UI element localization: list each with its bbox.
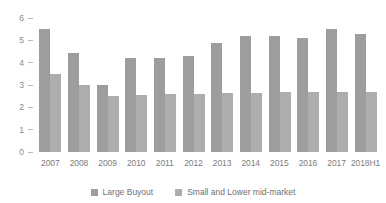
bar-group <box>351 18 380 152</box>
bar[interactable] <box>39 29 50 152</box>
y-axis-tick: 0 <box>0 146 36 158</box>
y-axis-tick-label: 3 <box>19 79 24 91</box>
bar[interactable] <box>269 36 280 152</box>
y-axis-tick-mark <box>28 152 33 153</box>
bar[interactable] <box>355 34 366 152</box>
x-axis-tick-label: 2013 <box>208 155 237 171</box>
bar[interactable] <box>337 92 348 152</box>
bar[interactable] <box>308 92 319 152</box>
bar[interactable] <box>125 58 136 152</box>
y-axis-tick-label: 1 <box>19 124 24 136</box>
bar[interactable] <box>108 96 119 152</box>
bar-group <box>265 18 294 152</box>
legend-swatch-icon <box>91 189 98 196</box>
legend-item[interactable]: Small and Lower mid-market <box>175 187 295 197</box>
x-axis-tick-label: 2015 <box>265 155 294 171</box>
bar[interactable] <box>326 29 337 152</box>
bar-group <box>122 18 151 152</box>
x-axis-tick-label: 2008 <box>65 155 94 171</box>
chart-legend: Large BuyoutSmall and Lower mid-market <box>0 184 386 200</box>
bar-group <box>294 18 323 152</box>
bar[interactable] <box>154 58 165 152</box>
x-axis-tick-label: 2014 <box>236 155 265 171</box>
bar[interactable] <box>251 93 262 152</box>
y-axis-tick-mark <box>28 62 33 63</box>
y-axis: 0123456 <box>0 0 36 152</box>
x-axis-tick-label: 2018H1 <box>351 155 380 171</box>
y-axis-tick-mark <box>28 107 33 108</box>
x-axis-tick-label: 2007 <box>36 155 65 171</box>
y-axis-tick: 4 <box>0 57 36 69</box>
x-axis: 2007200820092010201120122013201420152016… <box>36 155 380 171</box>
bar[interactable] <box>366 92 377 152</box>
bar[interactable] <box>68 53 79 152</box>
y-axis-tick-label: 5 <box>19 34 24 46</box>
bar[interactable] <box>280 92 291 152</box>
y-axis-tick-mark <box>28 18 33 19</box>
bar-chart: 0123456 20072008200920102011201220132014… <box>0 0 386 203</box>
bar-group <box>323 18 352 152</box>
y-axis-tick: 3 <box>0 79 36 91</box>
legend-label: Large Buyout <box>103 187 154 197</box>
bar[interactable] <box>79 85 90 152</box>
bar[interactable] <box>240 36 251 152</box>
bar[interactable] <box>183 56 194 152</box>
legend-item[interactable]: Large Buyout <box>91 187 154 197</box>
bar-group <box>179 18 208 152</box>
bar[interactable] <box>50 74 61 152</box>
bars-layer <box>36 18 380 152</box>
bar[interactable] <box>136 95 147 152</box>
bar[interactable] <box>194 94 205 152</box>
bar[interactable] <box>165 94 176 152</box>
y-axis-tick: 2 <box>0 101 36 113</box>
bar-group <box>237 18 266 152</box>
y-axis-tick-mark <box>28 85 33 86</box>
x-axis-tick-label: 2010 <box>122 155 151 171</box>
y-axis-tick-mark <box>28 129 33 130</box>
y-axis-tick-label: 2 <box>19 101 24 113</box>
bar-group <box>208 18 237 152</box>
x-axis-tick-label: 2017 <box>322 155 351 171</box>
x-axis-tick-label: 2009 <box>93 155 122 171</box>
bar-group <box>151 18 180 152</box>
y-axis-tick-label: 4 <box>19 57 24 69</box>
legend-label: Small and Lower mid-market <box>187 187 295 197</box>
y-axis-tick-mark <box>28 40 33 41</box>
bar[interactable] <box>222 93 233 152</box>
y-axis-tick: 1 <box>0 124 36 136</box>
bar[interactable] <box>297 38 308 152</box>
bar[interactable] <box>211 43 222 152</box>
y-axis-tick: 6 <box>0 12 36 24</box>
x-axis-tick-label: 2012 <box>179 155 208 171</box>
bar[interactable] <box>97 85 108 152</box>
x-axis-tick-label: 2011 <box>151 155 180 171</box>
y-axis-tick-label: 6 <box>19 12 24 24</box>
x-axis-tick-label: 2016 <box>294 155 323 171</box>
y-axis-tick-label: 0 <box>19 146 24 158</box>
y-axis-tick: 5 <box>0 34 36 46</box>
bar-group <box>65 18 94 152</box>
legend-swatch-icon <box>175 189 182 196</box>
bar-group <box>93 18 122 152</box>
bar-group <box>36 18 65 152</box>
